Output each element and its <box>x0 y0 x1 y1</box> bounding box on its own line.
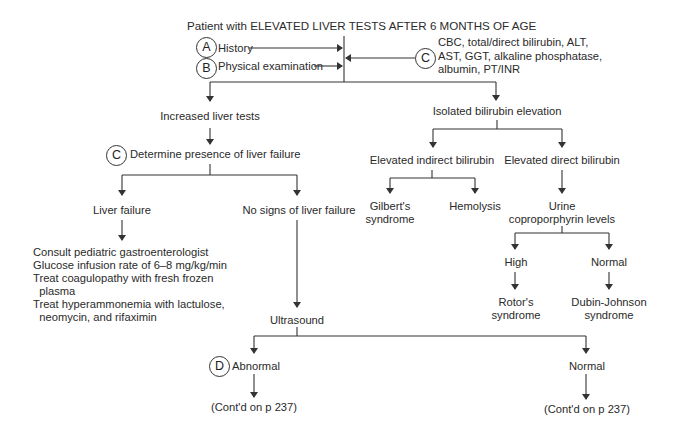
elevated-indirect-bilirubin: Elevated indirect bilirubin <box>370 154 494 167</box>
rotor-line-2: syndrome <box>491 309 540 322</box>
flowchart-title: Patient with ELEVATED LIVER TESTS AFTER … <box>187 19 536 32</box>
abnormal: Abnormal <box>232 360 280 373</box>
management-line-3: Treat coagulopathy with fresh frozen <box>33 272 214 285</box>
physical-exam-label: Physical examination <box>218 60 323 73</box>
increased-liver-tests: Increased liver tests <box>160 110 260 123</box>
no-signs-liver-failure: No signs of liver failure <box>242 204 355 217</box>
liver-failure: Liver failure <box>93 204 151 217</box>
badge-d: D <box>209 356 230 377</box>
elevated-direct-bilirubin: Elevated direct bilirubin <box>504 154 620 167</box>
badge-c-determine: C <box>106 145 127 166</box>
management-line-5: Treat hyperammonemia with lactulose, <box>33 298 225 311</box>
dubin-line-2: syndrome <box>584 309 633 322</box>
labs-line-1: CBC, total/direct bilirubin, ALT, <box>438 36 588 49</box>
labs-line-2: AST, GGT, alkaline phosphatase, <box>438 50 602 63</box>
coproporphyrin-high: High <box>504 256 527 269</box>
abnormal-continued: (Cont'd on p 237) <box>211 401 297 414</box>
determine-liver-failure: Determine presence of liver failure <box>130 148 300 161</box>
management-line-6: neomycin, and rifaximin <box>33 311 157 324</box>
management-line-4: plasma <box>33 285 75 298</box>
history-label: History <box>218 42 253 55</box>
ultrasound: Ultrasound <box>270 314 324 327</box>
normal-continued: (Cont'd on p 237) <box>544 403 630 416</box>
badge-b: B <box>196 58 217 79</box>
urine-line-1: Urine <box>549 200 576 213</box>
labs-line-3: albumin, PT/INR <box>438 63 520 76</box>
gilbert-line-1: Gilbert's <box>370 200 411 213</box>
management-line-1: Consult pediatric gastroenterologist <box>33 246 208 259</box>
hemolysis: Hemolysis <box>449 200 501 213</box>
gilbert-line-2: syndrome <box>365 213 414 226</box>
badge-c-labs: C <box>415 48 436 69</box>
dubin-line-1: Dubin-Johnson <box>571 296 646 309</box>
badge-a: A <box>196 37 217 58</box>
rotor-line-1: Rotor's <box>498 296 533 309</box>
isolated-bilirubin-elevation: Isolated bilirubin elevation <box>433 105 562 118</box>
management-line-2: Glucose infusion rate of 6–8 mg/kg/min <box>33 259 227 272</box>
ultrasound-normal: Normal <box>569 360 605 373</box>
coproporphyrin-normal: Normal <box>591 256 627 269</box>
urine-line-2: coproporphyrin levels <box>509 213 615 226</box>
